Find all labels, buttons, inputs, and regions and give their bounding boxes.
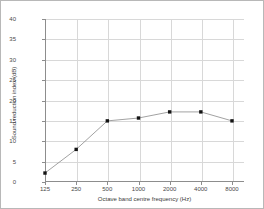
- data-point-marker: [43, 171, 46, 174]
- chart-figure: 40 35 30 25 20 15 10 5 0 125 250 500 100…: [0, 0, 264, 209]
- data-point-marker: [199, 110, 202, 113]
- data-point-marker: [137, 116, 140, 119]
- data-series-layer: [1, 1, 264, 209]
- data-point-marker: [106, 119, 109, 122]
- data-point-marker: [74, 148, 77, 151]
- data-point-marker: [168, 110, 171, 113]
- data-point-marker: [230, 119, 233, 122]
- series-markers: [43, 110, 233, 175]
- series-line-sound-reduction-index: [45, 112, 232, 173]
